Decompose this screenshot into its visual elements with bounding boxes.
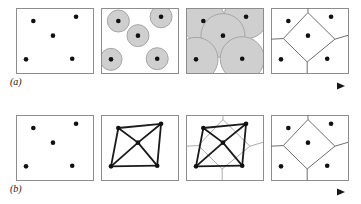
panel-b-voronoi-site-top-right-dot <box>329 121 334 126</box>
panel-b-overlay-site-bottom-left-dot <box>194 164 199 169</box>
row-label-b: (b) <box>10 184 22 194</box>
panel-b-voronoi-site-center-dot <box>306 140 311 145</box>
panel-a-sites-site-top-left-dot <box>31 19 36 24</box>
panel-b-delaunay-site-center-dot <box>136 140 141 145</box>
panel-b-delaunay-site-bottom-left-dot <box>109 164 114 169</box>
panel-b-sites-site-center-dot <box>51 140 56 145</box>
panel-a-sites-site-top-right-dot <box>74 14 79 19</box>
panel-b-overlay-site-top-right-dot <box>244 121 249 126</box>
panel-a-voronoi-site-bottom-left-dot <box>279 57 284 62</box>
panel-a-voronoi-site-top-right-dot <box>329 14 334 19</box>
panel-b-sites-site-bottom-left-dot <box>24 164 29 169</box>
row-label-a: (a) <box>10 77 22 87</box>
panel-b-delaunay-site-top-left-dot <box>116 126 121 131</box>
panel-b-voronoi-frame <box>272 116 349 181</box>
panel-a-small-circles-site-bottom-left-dot <box>109 57 114 62</box>
panel-b-voronoi <box>271 115 349 181</box>
panel-a-voronoi-site-bottom-right-dot <box>325 56 330 61</box>
panel-b-overlay-site-center-dot <box>221 140 226 145</box>
panel-a-small-circles-site-center-dot <box>136 33 141 38</box>
panel-a-sites-site-bottom-left-dot <box>24 57 29 62</box>
panel-a-voronoi-frame <box>272 9 349 74</box>
panel-a-small-circles-site-top-left-dot <box>116 19 121 24</box>
panel-b-voronoi-cell-spoke-3 <box>271 146 283 147</box>
panel-b-overlay-edge-7 <box>196 166 242 167</box>
panel-a-sites <box>17 9 94 74</box>
voronoi-delaunay-figure: (a) (b) <box>0 0 361 204</box>
panel-a-large-circles-site-center-dot <box>221 33 226 38</box>
progression-arrow-b-head <box>337 188 345 195</box>
panel-a-sites-frame <box>17 9 94 74</box>
progression-arrow-a <box>44 82 345 89</box>
panel-a-large-circles-site-top-left-dot <box>201 19 206 24</box>
panel-b-delaunay <box>102 116 179 181</box>
panel-a-large-circles-site-bottom-right-dot <box>240 56 245 61</box>
panel-a-small-circles <box>100 6 178 74</box>
panel-b-delaunay-site-top-right-dot <box>159 121 164 126</box>
panel-b-voronoi-site-bottom-left-dot <box>279 164 284 169</box>
panel-a-large-circles-site-bottom-left-dot <box>194 57 199 62</box>
panel-b-voronoi-site-top-left-dot <box>286 126 291 131</box>
panel-b-voronoi-site-bottom-right-dot <box>325 163 330 168</box>
panel-a-sites-site-center-dot <box>51 33 56 38</box>
panel-b-sites-site-top-right-dot <box>74 121 79 126</box>
panel-a-voronoi-site-center-dot <box>306 33 311 38</box>
panel-a-large-circles-site-top-right-dot <box>244 14 249 19</box>
panel-b-sites <box>17 116 94 181</box>
panel-a-large-circles <box>174 0 268 81</box>
panel-b-sites-site-bottom-right-dot <box>70 163 75 168</box>
progression-arrow-a-head <box>337 82 345 89</box>
figure-canvas <box>0 0 361 204</box>
panel-b-delaunay-site-bottom-right-dot <box>155 163 160 168</box>
panel-b-sites-frame <box>17 116 94 181</box>
panel-a-small-circles-site-bottom-right-dot <box>155 56 160 61</box>
progression-arrow-b <box>44 188 345 195</box>
panel-a-voronoi-cell-spoke-3 <box>271 39 283 40</box>
panel-b-delaunay-edge-7 <box>111 166 157 167</box>
panel-a-small-circles-site-top-right-dot <box>159 14 164 19</box>
panel-b-overlay-site-bottom-right-dot <box>240 163 245 168</box>
panel-a-voronoi-site-top-left-dot <box>286 19 291 24</box>
panel-b-sites-site-top-left-dot <box>31 126 36 131</box>
panels-layer <box>17 0 349 181</box>
panel-b-overlay-site-top-left-dot <box>201 126 206 131</box>
panel-a-voronoi <box>271 8 349 74</box>
panel-a-sites-site-bottom-right-dot <box>70 56 75 61</box>
panel-b-overlay <box>186 115 264 181</box>
